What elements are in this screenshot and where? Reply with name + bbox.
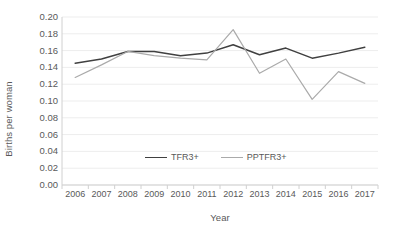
x-axis-tick-label: 2015 [299,189,325,199]
legend-label-tfr3: TFR3+ [171,152,199,162]
x-axis-tick-label: 2007 [89,189,115,199]
x-axis-tick-label: 2014 [273,189,299,199]
x-axis-tick-label: 2010 [168,189,194,199]
x-axis-tick-label: 2008 [115,189,141,199]
x-axis-tick-label: 2006 [62,189,88,199]
legend-label-pptfr3: PPTFR3+ [247,152,287,162]
legend-swatch-icon-pptfr3 [221,157,243,158]
x-axis-title: Year [62,212,378,223]
legend-item-pptfr3: PPTFR3+ [221,152,287,162]
legend-item-tfr3: TFR3+ [145,152,199,162]
x-axis-tick-label: 2011 [194,189,220,199]
series-line-tfr3 [75,45,365,63]
series-lines [75,30,365,100]
series-line-pptfr3 [75,30,365,100]
x-axis-tick-label: 2016 [326,189,352,199]
plot-area [0,0,396,238]
x-axis-tick-label: 2009 [141,189,167,199]
x-axis-tick-label: 2012 [220,189,246,199]
x-axis-tick-label: 2017 [352,189,378,199]
legend: TFR3+ PPTFR3+ [145,152,287,162]
legend-swatch-icon-tfr3 [145,157,167,158]
line-chart: Births per woman 0.200.180.160.140.120.1… [0,0,396,238]
x-axis-tick-label: 2013 [247,189,273,199]
